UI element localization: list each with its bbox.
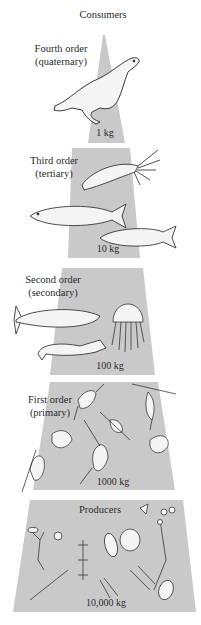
mass-producers: 10,000 kg — [76, 597, 136, 608]
level-name-secondary: Second order — [18, 274, 88, 286]
mass-tertiary: 10 kg — [88, 243, 128, 254]
mass-primary: 1000 kg — [88, 476, 138, 487]
level-sub-secondary: (secondary) — [18, 287, 88, 299]
level-name-tertiary: Third order — [24, 155, 84, 167]
level-name-primary: First order — [20, 394, 80, 406]
mass-secondary: 100 kg — [85, 360, 135, 371]
mass-quaternary: 1 kg — [85, 127, 125, 138]
level-sub-primary: (primary) — [20, 407, 80, 419]
biomass-pyramid — [0, 0, 201, 625]
level-sub-quaternary: (quaternary) — [26, 56, 96, 68]
level-name-quaternary: Fourth order — [26, 43, 96, 55]
level-name-producers: Producers — [70, 504, 130, 516]
level-sub-tertiary: (tertiary) — [24, 168, 84, 180]
consumers-title: Consumers — [68, 9, 138, 21]
